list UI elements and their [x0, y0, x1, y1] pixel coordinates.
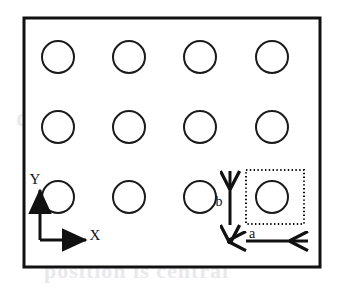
hole-circle: [184, 41, 216, 73]
pitch-y-label: b: [216, 194, 223, 209]
hole-circle: [113, 181, 145, 213]
hole-circle: [184, 111, 216, 143]
hole-circle: [256, 111, 288, 143]
pitch-x-label: a: [249, 226, 256, 241]
x-axis-label: X: [90, 227, 101, 243]
figure-root: region of interest d lens focus enti pos…: [0, 0, 346, 289]
hole-array-diagram: Y X b a: [0, 0, 346, 289]
hole-circle: [113, 111, 145, 143]
y-axis-label: Y: [30, 171, 41, 187]
hole-circle: [42, 41, 74, 73]
hole-circle: [42, 111, 74, 143]
hole-circle: [42, 181, 74, 213]
hole-circle: [256, 181, 288, 213]
hole-circle: [256, 41, 288, 73]
hole-circle: [113, 41, 145, 73]
hole-circle: [184, 181, 216, 213]
